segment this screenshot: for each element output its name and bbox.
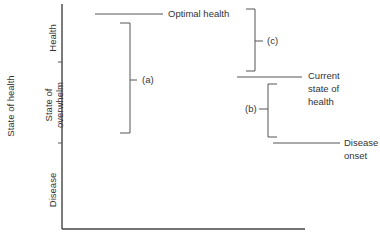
- bracket-c-label: (c): [267, 35, 278, 46]
- bracket-a-label: (a): [142, 74, 154, 85]
- optimal-health-label: Optimal health: [168, 8, 229, 19]
- zone-label-health: Health: [47, 24, 58, 51]
- zone-label-disease: Disease: [47, 173, 58, 207]
- disease-onset-label-line1: Disease: [344, 137, 378, 148]
- disease-onset-label-line2: onset: [344, 150, 368, 161]
- zone-label-overwhelm-line2: overwhelm: [54, 82, 65, 128]
- bracket-c: [246, 9, 255, 71]
- y-axis-title: State of health: [5, 75, 16, 136]
- health-continuum-diagram: State of health Health State of overwhel…: [0, 0, 380, 237]
- current-state-label-line3: health: [308, 96, 334, 107]
- bracket-b-label: (b): [245, 103, 257, 114]
- bracket-b: [268, 84, 277, 137]
- current-state-label-line1: Current: [308, 70, 340, 81]
- zone-label-overwhelm-line1: State of: [43, 88, 54, 121]
- current-state-label-line2: state of: [308, 83, 340, 94]
- bracket-a: [120, 23, 130, 133]
